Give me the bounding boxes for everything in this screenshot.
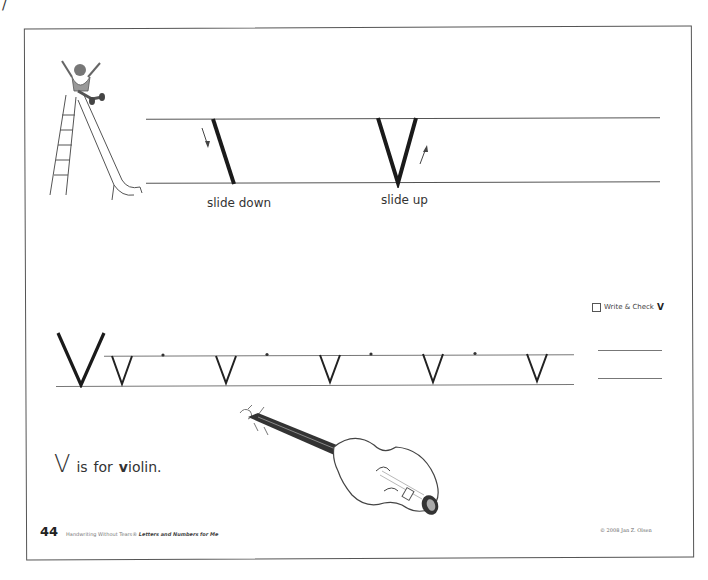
write-check-label: Write & Check [604,303,654,311]
page-number: 44 [40,524,58,539]
word-rest: iolin. [128,459,162,475]
copyright: © 2008 Jan Z. Olsen [600,527,652,533]
sentence-word-violin: violin. [119,459,162,475]
slide-down-stroke [200,112,250,188]
write-check[interactable]: Write & Check V [592,302,664,312]
arrow-down-icon [205,141,210,148]
checkbox[interactable] [592,303,601,312]
slide-illustration [44,55,154,205]
sentence-letter: V [54,450,70,478]
stroke-label-slide-up: slide up [381,193,428,207]
corner-mark: / [2,0,7,12]
slide-up-stroke [370,112,440,188]
footer-left: 44 Handwriting Without Tears® Letters an… [40,524,218,539]
bold-initial: v [119,459,128,475]
publisher: Handwriting Without Tears® [66,531,137,537]
sentence-word-for: for [94,459,113,475]
sentence: V is for violin. [54,450,162,478]
write-area-baseline[interactable] [598,378,662,379]
arrow-up-icon [423,145,428,152]
sentence-word-is: is [76,459,87,475]
write-check-letter: V [657,302,664,312]
write-area-midline[interactable] [598,350,662,351]
practice-letters [100,352,560,388]
publisher-line: Handwriting Without Tears® Letters and N… [66,531,218,537]
book-title: Letters and Numbers for Me [139,531,218,537]
violin-illustration [234,405,454,517]
stroke-label-slide-down: slide down [207,196,271,210]
